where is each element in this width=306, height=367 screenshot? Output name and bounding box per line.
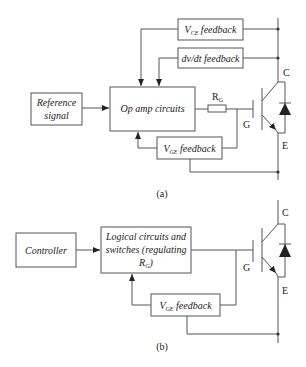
dvdt-label: dv/dt feedback: [181, 53, 240, 64]
reference-label-line2: signal: [44, 110, 69, 121]
diagram-a: VCE feedback dv/dt feedback Reference si…: [31, 18, 291, 200]
op-amp-label: Op amp circuits: [120, 103, 184, 114]
collector-label-a: C: [283, 67, 290, 78]
caption-b: (b): [156, 341, 168, 353]
op-amp-block: Op amp circuits: [110, 87, 195, 131]
diode-icon: [279, 244, 291, 257]
reference-label-line1: Reference: [36, 97, 77, 108]
vge-label-rest: feedback: [178, 143, 217, 154]
gate-driver-diagrams: VCE feedback dv/dt feedback Reference si…: [0, 0, 306, 367]
diagram-b: Controller Logical circuits and switches…: [16, 200, 291, 353]
vge-feedback-block-a: VGE feedback: [157, 137, 222, 159]
logic-label-line2: switches (regulating: [105, 244, 186, 256]
igbt-symbol-a: [253, 82, 291, 133]
igbt-symbol-b: [253, 224, 291, 277]
gate-resistor: [208, 105, 226, 112]
collector-label-b: C: [282, 207, 289, 218]
logic-block: Logical circuits and switches (regulatin…: [101, 227, 191, 273]
junction-dot: [276, 56, 279, 59]
rg-label: RG: [212, 91, 224, 103]
gate-label-a: G: [243, 119, 250, 130]
vce-feedback-block: VCE feedback: [178, 19, 243, 40]
reference-signal-block: Reference signal: [31, 93, 82, 125]
emitter-label-b: E: [282, 285, 288, 296]
vge-feedback-block-b: VGE feedback: [151, 294, 220, 316]
controller-label: Controller: [25, 245, 67, 256]
caption-a: (a): [156, 188, 167, 200]
diode-icon: [279, 103, 291, 115]
junction-dot: [276, 332, 279, 335]
emitter-label-a: E: [282, 140, 288, 151]
junction-dot: [276, 27, 279, 30]
logic-label-line1: Logical circuits and: [105, 231, 187, 242]
gate-label-b: G: [243, 262, 250, 273]
controller-block: Controller: [16, 233, 76, 267]
vce-label-rest: feedback: [198, 24, 237, 35]
dvdt-feedback-block: dv/dt feedback: [178, 48, 243, 68]
junction-dot: [276, 170, 279, 173]
